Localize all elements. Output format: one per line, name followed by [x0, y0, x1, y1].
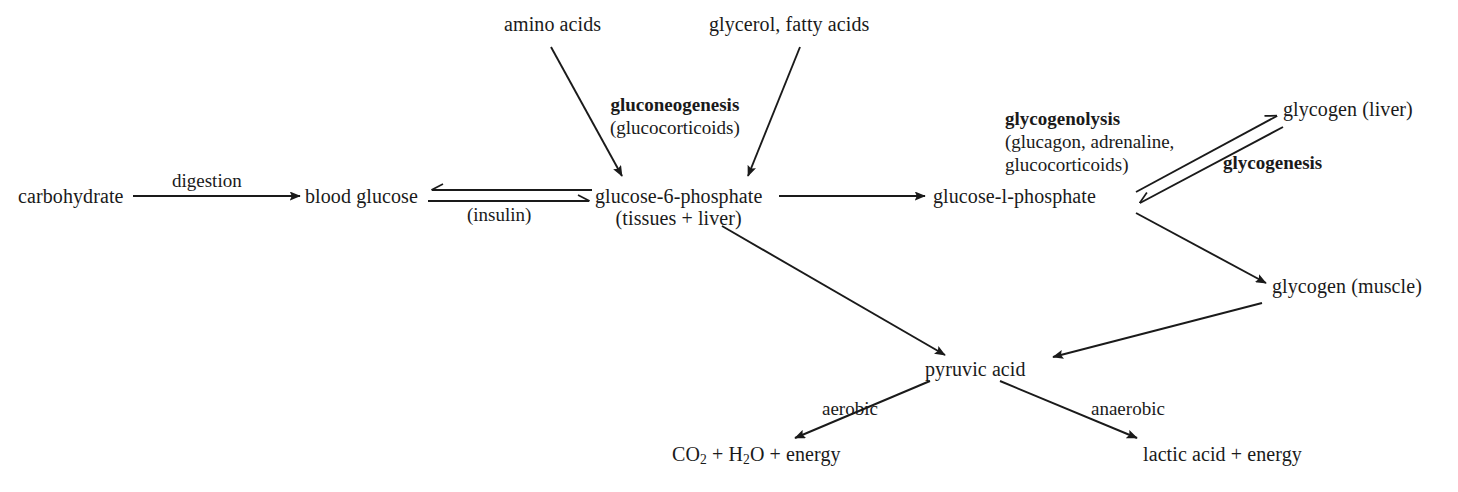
- node-glucose-6-phosphate-sublabel: (tissues + liver): [595, 207, 762, 229]
- node-glucose-6-phosphate-label: glucose-6-phosphate: [595, 185, 762, 207]
- node-lactic-acid-energy: lactic acid + energy: [1143, 443, 1302, 465]
- node-glycogen-muscle-label: glycogen (muscle): [1272, 275, 1422, 297]
- node-glycogen-liver-label: glycogen (liver): [1283, 98, 1413, 120]
- enzyme-label-glycogenolysis: glycogenolysis (glucagon, adrenaline, gl…: [1005, 108, 1174, 176]
- enzyme-label-glycogenesis: glycogenesis: [1223, 152, 1322, 175]
- gluconeogenesis-name: gluconeogenesis: [610, 94, 740, 117]
- edge-label-insulin: (insulin): [467, 204, 531, 225]
- node-glycerol-fatty-acids-label: glycerol, fatty acids: [709, 13, 869, 35]
- edge-label-digestion: digestion: [172, 170, 242, 191]
- node-carbohydrate: carbohydrate: [18, 185, 124, 207]
- node-blood-glucose: blood glucose: [305, 185, 418, 207]
- node-co2-h2o-energy: CO2 + H2O + energy: [672, 443, 841, 467]
- node-carbohydrate-label: carbohydrate: [18, 185, 124, 207]
- gluconeogenesis-regulators: (glucocorticoids): [610, 117, 740, 140]
- node-glycogen-muscle: glycogen (muscle): [1272, 275, 1422, 297]
- node-glucose-6-phosphate: glucose-6-phosphate (tissues + liver): [595, 185, 762, 230]
- node-glucose-1-phosphate: glucose-l-phosphate: [933, 185, 1096, 207]
- node-pyruvic-acid-label: pyruvic acid: [925, 358, 1026, 380]
- edge-label-anaerobic: anaerobic: [1091, 398, 1165, 419]
- arrow-g6p-to-pyruvic-acid: [722, 226, 945, 355]
- arrow-g1p-to-glycogen-muscle: [1136, 213, 1266, 283]
- node-glycogen-liver: glycogen (liver): [1283, 98, 1413, 120]
- edge-label-aerobic: aerobic: [822, 398, 878, 419]
- enzyme-label-gluconeogenesis: gluconeogenesis (glucocorticoids): [610, 94, 740, 140]
- glycogenolysis-regulators-line1: (glucagon, adrenaline,: [1005, 131, 1174, 154]
- arrow-layer: [0, 0, 1458, 492]
- node-amino-acids: amino acids: [504, 13, 601, 35]
- node-pyruvic-acid: pyruvic acid: [925, 358, 1026, 380]
- node-glycerol-fatty-acids: glycerol, fatty acids: [709, 13, 869, 35]
- arrow-glycogen-muscle-to-pyruvic-acid: [1053, 303, 1262, 357]
- node-lactic-acid-energy-label: lactic acid + energy: [1143, 443, 1302, 465]
- arrow-glycerol-fatty-acids-to-g6p: [748, 47, 800, 176]
- glycogenesis-name: glycogenesis: [1223, 152, 1322, 175]
- glycogenolysis-regulators-line2: glucocorticoids): [1005, 154, 1174, 177]
- node-glucose-1-phosphate-label: glucose-l-phosphate: [933, 185, 1096, 207]
- glycogenolysis-name: glycogenolysis: [1005, 108, 1174, 131]
- node-co2-h2o-energy-label: CO2 + H2O + energy: [672, 443, 841, 465]
- node-blood-glucose-label: blood glucose: [305, 185, 418, 207]
- node-amino-acids-label: amino acids: [504, 13, 601, 35]
- metabolism-pathway-diagram: carbohydrate amino acids glycerol, fatty…: [0, 0, 1458, 492]
